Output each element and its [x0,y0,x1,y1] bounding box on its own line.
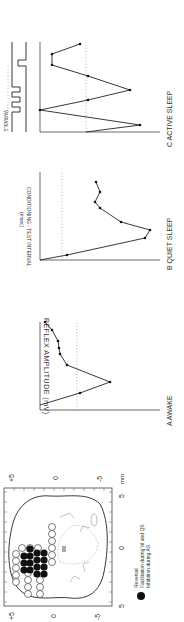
panel-c-curve [40,44,140,132]
panel-active-sleep: C ACTIVE SLEEP VARIABLE [3,42,173,147]
x-axis-label: CONDITIONING - TEST INTERVAL [26,187,32,267]
panel-quiet-sleep: B QUIET SLEEP CONDITIONING - TEST INTERV… [19,172,174,270]
variable-label: VARIABLE [3,110,8,132]
panel-awake: A AWAKE [40,321,173,426]
map-left-label-minus5: -5 [94,614,101,620]
map-left-label-plus5: +5 [8,612,15,620]
rotated-figure: +5 0 -5 [0,0,184,622]
map-x-tick-0: 0 [118,546,125,550]
legend-filled-circle-icon [137,592,145,600]
panel-a-title: A AWAKE [166,395,173,426]
map-left-label-0: 0 [50,614,57,618]
x-axis-unit: (msec) [19,212,25,228]
panel-b-title: B QUIET SLEEP [166,217,174,270]
map-x-tick-5-left: 5 [118,604,125,608]
map-right-label-plus5: +5 [8,474,15,482]
legend-line-3: Inhibition during AS [145,544,151,588]
map-x-unit: mm [119,474,125,484]
map-x-tick-5-right: 5 [118,494,125,498]
panel-b-curve [40,182,150,260]
brainstem-map-panel: +5 0 -5 [4,474,151,620]
stim-timing-diagram: VARIABLE [3,42,26,132]
map-right-label-minus5: -5 [96,476,103,482]
y-axis-label: REFLEX AMPLITUDE (mV) [42,318,50,414]
panel-c-title: C ACTIVE SLEEP [166,90,173,147]
map-right-label-0: 0 [52,476,59,480]
